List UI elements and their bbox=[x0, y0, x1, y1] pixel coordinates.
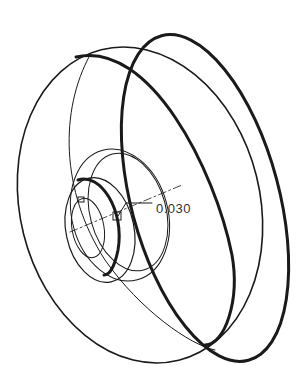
hub-front-face bbox=[56, 171, 145, 289]
rim-back-edge bbox=[90, 17, 303, 380]
rim-front-outer bbox=[0, 21, 295, 389]
dimension-label: 0.030 bbox=[156, 201, 191, 216]
pulley-drawing bbox=[0, 0, 303, 389]
